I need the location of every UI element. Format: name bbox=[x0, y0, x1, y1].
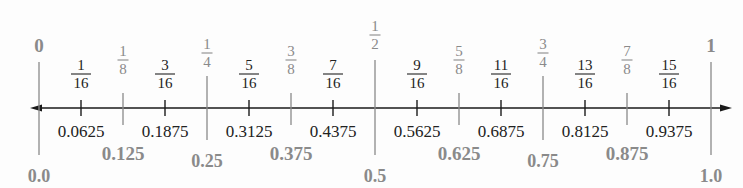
fraction-numerator: 5 bbox=[455, 43, 463, 59]
fraction-denominator: 16 bbox=[578, 75, 594, 91]
decimal-label: 0.3125 bbox=[226, 122, 273, 141]
whole-number-label: 1 bbox=[706, 35, 716, 56]
decimal-label: 0.5 bbox=[364, 166, 387, 186]
fraction-denominator: 4 bbox=[203, 54, 211, 70]
tick-label-group: 11160.6875 bbox=[478, 57, 525, 141]
decimal-label: 0.9375 bbox=[646, 122, 693, 141]
fraction-denominator: 16 bbox=[242, 75, 258, 91]
whole-number-label: 0 bbox=[34, 35, 44, 56]
right-arrow-icon bbox=[720, 105, 732, 112]
number-line-diagram: 00.01160.0625180.1253160.1875140.255160.… bbox=[0, 0, 743, 188]
decimal-label: 0.0 bbox=[28, 166, 51, 186]
fraction-numerator: 11 bbox=[494, 57, 508, 73]
decimal-label: 0.5625 bbox=[394, 122, 441, 141]
tick-label-group: 13160.8125 bbox=[562, 57, 609, 141]
fraction-denominator: 16 bbox=[410, 75, 426, 91]
fraction-denominator: 4 bbox=[539, 54, 547, 70]
decimal-label: 0.1875 bbox=[142, 122, 189, 141]
decimal-label: 0.125 bbox=[102, 143, 145, 164]
fraction-denominator: 8 bbox=[119, 61, 127, 77]
fraction-denominator: 16 bbox=[494, 75, 510, 91]
fraction-numerator: 3 bbox=[539, 36, 547, 52]
decimal-label: 0.8125 bbox=[562, 122, 609, 141]
decimal-label: 0.4375 bbox=[310, 122, 357, 141]
tick-label-group: 15160.9375 bbox=[646, 57, 693, 141]
decimal-label: 0.875 bbox=[606, 143, 649, 164]
fraction-denominator: 16 bbox=[662, 75, 678, 91]
fraction-denominator: 8 bbox=[623, 61, 631, 77]
decimal-label: 0.0625 bbox=[58, 122, 105, 141]
tick-label-group: 9160.5625 bbox=[394, 57, 441, 141]
fraction-denominator: 8 bbox=[287, 61, 295, 77]
fraction-numerator: 5 bbox=[245, 57, 253, 73]
fraction-denominator: 8 bbox=[455, 61, 463, 77]
fraction-numerator: 1 bbox=[77, 57, 85, 73]
fraction-denominator: 16 bbox=[326, 75, 342, 91]
fraction-numerator: 9 bbox=[413, 57, 421, 73]
decimal-label: 1.0 bbox=[700, 166, 723, 186]
fraction-numerator: 1 bbox=[371, 18, 379, 34]
fraction-numerator: 13 bbox=[578, 57, 593, 73]
tick-label-group: 1160.0625 bbox=[58, 57, 105, 141]
fraction-denominator: 16 bbox=[74, 75, 90, 91]
fraction-denominator: 2 bbox=[371, 36, 379, 52]
tick-label-group: 3160.1875 bbox=[142, 57, 189, 141]
fraction-denominator: 16 bbox=[158, 75, 174, 91]
decimal-label: 0.25 bbox=[191, 151, 223, 171]
left-arrow-icon bbox=[30, 105, 42, 112]
fraction-numerator: 3 bbox=[161, 57, 169, 73]
fraction-numerator: 1 bbox=[119, 43, 127, 59]
tick-label-group: 7160.4375 bbox=[310, 57, 357, 141]
decimal-label: 0.75 bbox=[527, 151, 559, 171]
fraction-numerator: 7 bbox=[329, 57, 337, 73]
decimal-label: 0.6875 bbox=[478, 122, 525, 141]
fraction-numerator: 1 bbox=[203, 36, 211, 52]
decimal-label: 0.375 bbox=[270, 143, 313, 164]
tick-label-group: 5160.3125 bbox=[226, 57, 273, 141]
decimal-label: 0.625 bbox=[438, 143, 481, 164]
fraction-numerator: 15 bbox=[662, 57, 677, 73]
fraction-numerator: 7 bbox=[623, 43, 631, 59]
fraction-numerator: 3 bbox=[287, 43, 295, 59]
